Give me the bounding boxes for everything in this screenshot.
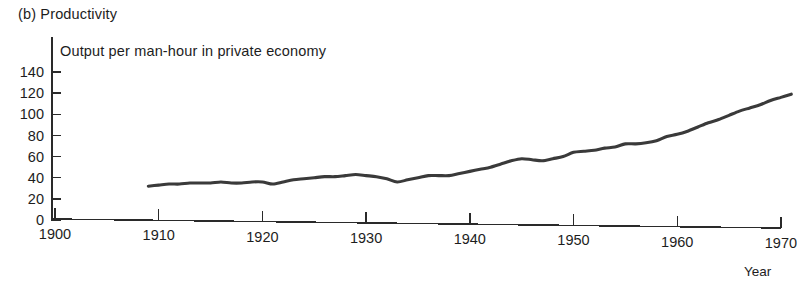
x-axis-ticks: 19001910192019301940195019601970	[39, 208, 797, 251]
x-tick-label: 1920	[246, 229, 278, 245]
x-tick-label: 1950	[557, 232, 589, 248]
plot-canvas: 020406080100120140 190019101920193019401…	[0, 0, 797, 289]
x-tick-label: 1910	[143, 227, 175, 243]
y-tick-label: 40	[28, 170, 44, 186]
x-tick-label: 1900	[39, 226, 71, 242]
x-tick-label: 1940	[454, 231, 486, 247]
y-tick-label: 20	[28, 191, 44, 207]
y-tick-label: 80	[28, 128, 44, 144]
y-tick-label: 140	[20, 64, 44, 80]
y-tick-label: 100	[20, 106, 44, 122]
y-axis-ticks: 020406080100120140	[20, 64, 61, 228]
x-tick-label: 1930	[350, 230, 382, 246]
x-tick-label: 1960	[661, 234, 693, 250]
y-tick-label: 120	[20, 85, 44, 101]
data-series-line	[148, 94, 791, 186]
figure-root: (b) Productivity Output per man-hour in …	[0, 0, 797, 289]
x-tick-label: 1970	[765, 235, 797, 251]
y-tick-label: 60	[28, 149, 44, 165]
